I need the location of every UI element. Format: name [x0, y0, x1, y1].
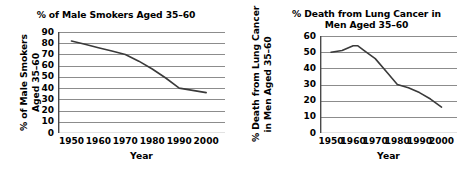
y-tick-label: 50: [32, 71, 54, 81]
y-tick-label: 70: [32, 49, 54, 59]
y-tick-label: 90: [32, 27, 54, 37]
x-axis-title-male-smokers: Year: [58, 150, 225, 161]
y-tick-label: 50: [294, 47, 316, 57]
y-axis-title-line1: % Death from Lung Cancer: [250, 5, 261, 141]
chart-title-male-smokers: % of Male Smokers Aged 35–60: [0, 9, 232, 20]
two-chart-figure: % of Male Smokers Aged 35–60 % of Male S…: [0, 0, 465, 180]
y-axis-title-line2: in Men Aged 35–60: [261, 36, 272, 132]
chart-lung-cancer-death: % Death from Lung Cancer in Men Aged 35–…: [232, 0, 465, 180]
y-tick-label: 10: [294, 111, 316, 121]
y-tick-label: 20: [294, 95, 316, 105]
y-tick-label: 10: [32, 116, 54, 126]
x-tick-label: 1950: [56, 136, 86, 146]
chart-title-line2: Men Aged 35–60: [325, 19, 409, 30]
y-axis-title-line1: % of Male Smokers: [18, 34, 29, 131]
x-tick-label: 2000: [427, 136, 457, 146]
y-tick-label: 80: [32, 38, 54, 48]
chart-title-line1: % Death from Lung Cancer in: [292, 8, 441, 19]
plot-area-lung-cancer: [320, 36, 457, 133]
y-tick-label: 30: [294, 79, 316, 89]
x-tick-label: 2000: [191, 136, 221, 146]
x-tick-label: 1960: [83, 136, 113, 146]
data-series-line: [331, 46, 441, 107]
chart-male-smokers: % of Male Smokers Aged 35–60 % of Male S…: [0, 0, 232, 180]
y-tick-label: 40: [32, 83, 54, 93]
y-tick-label: 60: [32, 60, 54, 70]
y-tick-label: 0: [294, 128, 316, 138]
x-tick-label: 1990: [164, 136, 194, 146]
y-tick-label: 30: [32, 94, 54, 104]
y-tick-label: 0: [32, 128, 54, 138]
y-axis-title-lung-cancer: % Death from Lung Cancer in Men Aged 35–…: [250, 27, 273, 142]
x-axis-title-lung-cancer: Year: [320, 150, 457, 161]
y-tick-label: 60: [294, 31, 316, 41]
y-tick-label: 20: [32, 105, 54, 115]
plot-area-male-smokers: [58, 32, 225, 133]
x-tick-label: 1970: [110, 136, 140, 146]
x-tick-label: 1980: [137, 136, 167, 146]
y-tick-label: 40: [294, 63, 316, 73]
